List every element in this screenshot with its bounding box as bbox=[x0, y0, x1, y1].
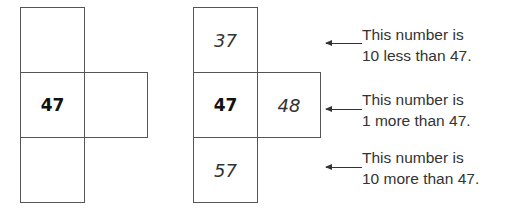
left-grid-top-cell bbox=[20, 7, 85, 73]
note-ten-less: This number is 10 less than 47. bbox=[362, 24, 471, 66]
left-grid-bottom-cell bbox=[20, 137, 85, 203]
right-grid-bottom-cell: 57 bbox=[193, 137, 258, 203]
left-grid-right-cell bbox=[84, 72, 148, 138]
arrow-left-icon bbox=[326, 43, 362, 44]
note-line: This number is bbox=[362, 147, 479, 168]
arrow-left-icon bbox=[326, 109, 362, 110]
note-line: This number is bbox=[362, 24, 471, 45]
note-line: 10 more than 47. bbox=[362, 168, 479, 189]
right-grid-center-cell: 47 bbox=[193, 72, 258, 138]
note-one-more: This number is 1 more than 47. bbox=[362, 89, 471, 131]
note-line: 1 more than 47. bbox=[362, 110, 471, 131]
left-grid-center-cell: 47 bbox=[20, 72, 85, 138]
note-line: This number is bbox=[362, 89, 471, 110]
right-grid-right-cell: 48 bbox=[257, 72, 321, 138]
note-line: 10 less than 47. bbox=[362, 45, 471, 66]
right-grid-top-cell: 37 bbox=[193, 7, 258, 73]
note-ten-more: This number is 10 more than 47. bbox=[362, 147, 479, 189]
arrow-left-icon bbox=[326, 167, 362, 168]
